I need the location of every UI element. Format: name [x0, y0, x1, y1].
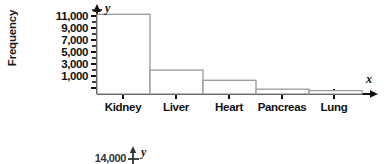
histogram-figure: Frequency y x 11,000 9,000 7,000 5,000 3… [0, 0, 388, 164]
y-tick-label-11000: 11,000 [22, 10, 88, 22]
x-variable-label: x [366, 72, 372, 87]
y-tick-label-9000: 9,000 [22, 22, 88, 34]
second-chart-y-tick-label: 14,000 [54, 152, 126, 164]
y-tick-label-7000: 7,000 [22, 34, 88, 46]
bar-lung [309, 91, 362, 94]
second-chart-y-variable-label: y [141, 145, 146, 160]
y-variable-label: y [105, 1, 110, 16]
bar-kidney [97, 14, 150, 94]
y-tick-label-1000: 1,000 [22, 70, 88, 82]
bar-pancreas [256, 89, 309, 94]
bar-series [97, 14, 362, 94]
y-axis-title: Frequency [6, 2, 18, 74]
x-category-label-lung: Lung [301, 101, 367, 113]
bar-heart [203, 80, 256, 94]
y-tick-label-5000: 5,000 [22, 46, 88, 58]
y-tick-label-3000: 3,000 [22, 58, 88, 70]
bar-liver [150, 70, 203, 94]
second-chart-axis [128, 146, 139, 164]
